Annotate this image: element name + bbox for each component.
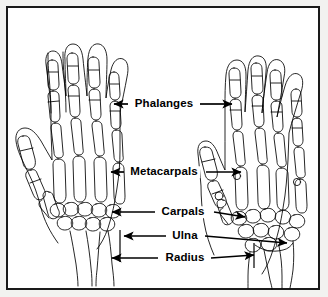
label-carpals: Carpals <box>160 206 207 218</box>
right-hand-outline <box>198 56 303 274</box>
right-phalanges-middle <box>251 63 267 164</box>
right-radius <box>248 252 250 288</box>
figure-root: Phalanges Metacarpals Carpals Ulna Radiu… <box>0 0 328 297</box>
left-phalanges-thumb <box>18 136 49 218</box>
left-phalanges-index <box>47 60 63 158</box>
right-phalanges-index <box>229 68 245 166</box>
right-ulna <box>290 241 294 288</box>
label-phalanges: Phalanges <box>133 98 195 110</box>
right-forearm-bones <box>248 241 294 289</box>
label-radius: Radius <box>164 252 207 264</box>
left-finger-index-outline <box>48 52 66 113</box>
label-ulna: Ulna <box>170 230 199 242</box>
left-phalanges-ring <box>88 57 104 156</box>
left-ulna <box>70 231 78 286</box>
left-carpals <box>50 202 121 231</box>
leader-carpals-right <box>214 212 245 217</box>
right-metacarpals <box>217 165 307 225</box>
right-phalanges-ring <box>270 70 286 167</box>
label-metacarpals: Metacarpals <box>128 166 200 178</box>
leader-radius-right <box>211 255 254 258</box>
left-forearm-bones <box>70 231 114 286</box>
left-hand-skeleton <box>16 44 128 286</box>
left-phalanges-little <box>109 72 123 162</box>
left-phalanges-middle <box>67 53 83 155</box>
